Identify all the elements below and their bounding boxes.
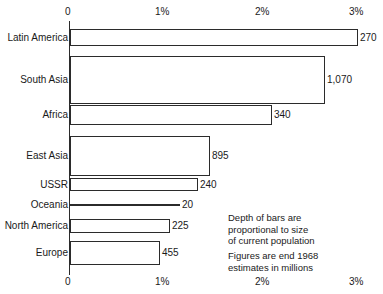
axis-label-bottom-0: 0 bbox=[65, 276, 71, 287]
category-label-africa: Africa bbox=[42, 109, 68, 120]
bar-value-oceania: 20 bbox=[182, 199, 193, 210]
bar-north-america bbox=[70, 219, 170, 233]
category-label-oceania: Oceania bbox=[31, 199, 68, 210]
bar-africa bbox=[70, 105, 272, 125]
axis-label-top-1: 1% bbox=[155, 6, 169, 17]
category-label-ussr: USSR bbox=[40, 179, 68, 190]
bar-east-asia bbox=[70, 136, 210, 176]
bar-latin-america bbox=[70, 29, 358, 46]
bar-ussr bbox=[70, 178, 198, 191]
bar-value-ussr: 240 bbox=[200, 179, 217, 190]
axis-label-bottom-3: 3% bbox=[349, 276, 363, 287]
chart-note-depth: Depth of bars are proportional to size o… bbox=[228, 212, 378, 247]
bar-south-asia bbox=[70, 56, 325, 104]
bar-value-east-asia: 895 bbox=[212, 150, 229, 161]
category-label-east-asia: East Asia bbox=[26, 150, 68, 161]
axis-label-bottom-2: 2% bbox=[255, 276, 269, 287]
population-growth-bar-chart: 0 1% 2% 3% 0 1% 2% 3% Latin America 270 … bbox=[0, 0, 383, 294]
bar-value-south-asia: 1,070 bbox=[327, 74, 352, 85]
axis-label-top-0: 0 bbox=[65, 6, 71, 17]
category-label-europe: Europe bbox=[36, 247, 68, 258]
category-label-north-america: North America bbox=[5, 220, 68, 231]
category-label-latin-america: Latin America bbox=[7, 32, 68, 43]
axis-label-top-2: 2% bbox=[255, 6, 269, 17]
category-label-south-asia: South Asia bbox=[20, 74, 68, 85]
bar-oceania bbox=[70, 204, 180, 206]
axis-label-bottom-1: 1% bbox=[155, 276, 169, 287]
bar-value-north-america: 225 bbox=[172, 220, 189, 231]
bar-value-europe: 455 bbox=[162, 247, 179, 258]
bar-value-africa: 340 bbox=[274, 109, 291, 120]
axis-label-top-3: 3% bbox=[349, 6, 363, 17]
chart-note-figures: Figures are end 1968 estimates in millio… bbox=[228, 250, 378, 273]
axis-tick-bottom-0 bbox=[69, 270, 70, 275]
bar-europe bbox=[70, 241, 160, 265]
bar-value-latin-america: 270 bbox=[360, 32, 377, 43]
